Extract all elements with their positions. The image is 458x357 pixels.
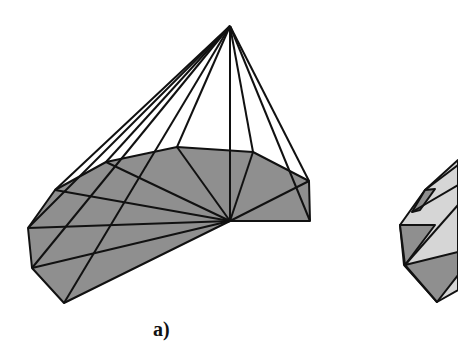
figure-canvas <box>0 0 458 357</box>
panel-a-caption: a) <box>153 318 170 341</box>
panel-a-polyhedron <box>28 26 310 303</box>
base-polygon <box>28 147 310 303</box>
panel-b-polyhedron <box>400 160 458 302</box>
